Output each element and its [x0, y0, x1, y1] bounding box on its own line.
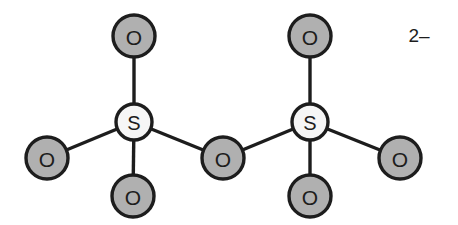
atom-label-o: O — [215, 148, 231, 171]
atom-label-s: S — [127, 112, 140, 134]
atom-label-o: O — [302, 26, 318, 49]
atom-label-o: O — [392, 148, 408, 171]
atom-s1-s: S — [116, 104, 152, 140]
atom-s2-s: S — [292, 104, 328, 140]
atom-o7-o: O — [379, 137, 421, 179]
diagram-canvas: OSOOOSOOO 2– — [0, 0, 458, 225]
atom-o1-o: O — [113, 15, 155, 57]
molecule-structure-diagram: OSOOOSOOO 2– — [0, 0, 458, 225]
charge-label: 2– — [408, 25, 430, 46]
atom-o3-o: O — [112, 175, 154, 217]
atom-label-o: O — [39, 148, 55, 171]
atom-o2-o: O — [26, 137, 68, 179]
atom-o4-o: O — [202, 137, 244, 179]
atom-layer: OSOOOSOOO — [26, 15, 421, 217]
atom-label-s: S — [303, 112, 316, 134]
annotation-layer: 2– — [408, 25, 430, 46]
atom-label-o: O — [302, 186, 318, 209]
atom-o6-o: O — [289, 175, 331, 217]
atom-label-o: O — [125, 186, 141, 209]
atom-label-o: O — [126, 26, 142, 49]
atom-o5-o: O — [289, 15, 331, 57]
